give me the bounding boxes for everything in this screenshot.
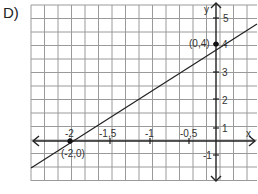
- y-axis-label: y: [204, 4, 209, 15]
- coordinate-plane: y x -2 -1,5 -1 -0,5 5 4 3 2 1 -1 (0,4) (…: [0, 0, 258, 194]
- y-tick-5: 5: [223, 13, 229, 24]
- x-tick-minus-2: -2: [65, 128, 74, 139]
- x-tick-minus-1-5: -1,5: [99, 128, 117, 139]
- y-tick-3: 3: [222, 67, 228, 78]
- y-tick-4: 4: [222, 39, 228, 50]
- point-minus2-0: [67, 138, 72, 143]
- point-0-4: [213, 41, 218, 46]
- point-label-minus2-0: (-2,0): [61, 148, 85, 159]
- point-label-0-4: (0,4): [189, 38, 210, 49]
- y-tick-minus-1: -1: [203, 150, 212, 161]
- x-axis-label: x: [246, 128, 251, 139]
- y-tick-1: 1: [222, 123, 228, 134]
- x-tick-minus-0-5: -0,5: [180, 128, 198, 139]
- x-tick-minus-1: -1: [145, 128, 154, 139]
- y-tick-2: 2: [222, 95, 228, 106]
